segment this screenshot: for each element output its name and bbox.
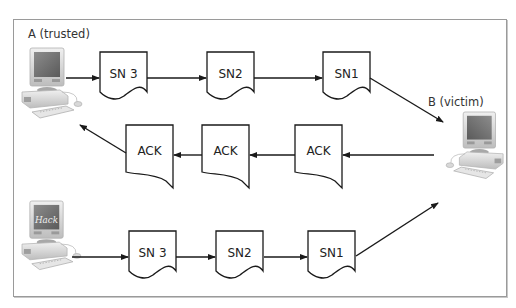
packet-ack-1: ACK	[126, 125, 173, 188]
packet-sn3-attacker: SN 3	[129, 231, 176, 278]
packet-ack-2: ACK	[202, 125, 249, 188]
packet-label: ACK	[137, 144, 162, 158]
packet-sn2-trusted: SN2	[207, 52, 254, 99]
host-a-computer-icon	[22, 48, 82, 118]
packet-sn1-trusted: SN1	[323, 52, 370, 99]
host-b-computer-icon	[446, 112, 503, 179]
packet-label: SN2	[218, 67, 242, 81]
packet-sn1-attacker: SN1	[308, 231, 355, 278]
attacker-computer-icon: Hack	[22, 201, 81, 270]
packet-label: SN1	[319, 246, 343, 260]
packet-ack-3: ACK	[295, 125, 342, 188]
packet-label: SN 3	[109, 67, 137, 81]
packet-label: SN 3	[138, 246, 166, 260]
packet-label: ACK	[306, 144, 331, 158]
packet-label: SN2	[227, 246, 251, 260]
packet-label: ACK	[213, 144, 238, 158]
hack-screen-text: Hack	[34, 215, 58, 225]
packet-label: SN1	[334, 67, 358, 81]
packet-sn2-attacker: SN2	[216, 231, 263, 278]
packet-sn3-trusted: SN 3	[100, 52, 147, 99]
